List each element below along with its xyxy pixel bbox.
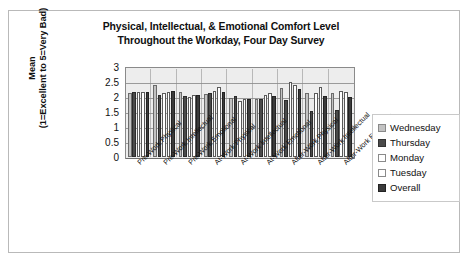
legend-label: Wednesday: [390, 123, 441, 133]
legend-label: Overall: [390, 183, 420, 193]
chart-title: Physical, Intellectual, & Emotional Comf…: [45, 20, 397, 47]
y-axis-title-line-2: (1=Excellent to 5=Very Bad): [38, 8, 50, 129]
y-axis-tick-0.5: 0.5: [105, 138, 119, 148]
bar: [137, 92, 141, 157]
y-axis-title-line-1: Mean: [27, 56, 37, 80]
legend-swatch-icon: [378, 184, 386, 192]
legend-swatch-icon: [378, 139, 386, 147]
bar: [238, 101, 242, 157]
chart-title-line-2: Throughout the Workday, Four Day Survey: [117, 35, 324, 46]
bar: [217, 87, 221, 157]
bar: [188, 97, 192, 157]
legend-item-monday[interactable]: Monday: [378, 150, 455, 165]
legend-swatch-icon: [378, 124, 386, 132]
bar: [132, 92, 136, 157]
legend-label: Monday: [390, 153, 424, 163]
legend-item-wednesday[interactable]: Wednesday: [378, 120, 455, 135]
bar: [213, 91, 217, 157]
y-axis-tick-2.5: 2.5: [105, 78, 119, 88]
y-axis-tick-0: 0: [113, 153, 119, 163]
legend-item-overall[interactable]: Overall: [378, 180, 455, 195]
x-axis-tick-labels: Pre-Work PhysicalPre-Work IntellectualPr…: [125, 161, 357, 241]
y-axis-title: Mean (1=Excellent to 5=Very Bad): [21, 0, 55, 143]
y-axis-tick-3: 3: [113, 63, 119, 73]
bar: [293, 85, 297, 157]
bar: [264, 95, 268, 157]
legend-item-tuesday[interactable]: Tuesday: [378, 165, 455, 180]
chart-title-line-1: Physical, Intellectual, & Emotional Comf…: [103, 21, 339, 32]
bar: [128, 93, 132, 158]
legend-swatch-icon: [378, 169, 386, 177]
bar: [344, 92, 348, 157]
legend-label: Tuesday: [390, 168, 426, 178]
chart-frame: Physical, Intellectual, & Emotional Comf…: [8, 10, 460, 253]
bar-group: [126, 69, 151, 157]
legend-swatch-icon: [378, 154, 386, 162]
y-axis-tick-1.5: 1.5: [105, 108, 119, 118]
bar: [162, 93, 166, 157]
bar: [319, 87, 323, 157]
bar: [268, 93, 272, 157]
y-axis-tick-1: 1: [113, 123, 119, 133]
bar: [141, 92, 145, 157]
y-axis-tick-2: 2: [113, 93, 119, 103]
y-axis-tick-labels: 32.521.510.50: [103, 67, 121, 159]
legend-item-thursday[interactable]: Thursday: [378, 135, 455, 150]
chart-legend: WednesdayThursdayMondayTuesdayOverall: [372, 114, 460, 202]
legend-label: Thursday: [390, 138, 430, 148]
